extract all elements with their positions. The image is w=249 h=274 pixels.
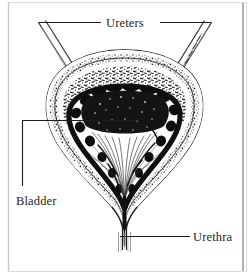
label-urethra: Urethra [193,230,233,244]
anatomy-illustration-canvas: Ureters Bladder Urethra [0,0,249,274]
left-ureter-tube [39,21,74,70]
right-ureter-tube [177,21,212,70]
bladder-anatomy-figure: Ureters Bladder Urethra [0,0,249,274]
label-bladder: Bladder [16,194,57,208]
label-ureters: Ureters [106,16,144,30]
